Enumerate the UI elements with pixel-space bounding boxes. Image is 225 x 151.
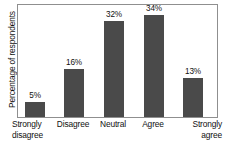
x-tick-strongly-agree: Strongly agree xyxy=(178,119,222,140)
bar-rect[interactable] xyxy=(183,78,203,117)
figure-caption xyxy=(24,147,214,151)
x-tick-line: Strongly xyxy=(178,119,222,130)
bar-value-label: 13% xyxy=(185,67,201,76)
bar-rect[interactable] xyxy=(25,102,45,117)
x-tick-line: Agree xyxy=(131,119,175,130)
x-axis-tick-labels: Strongly disagree Disagree Neutral Agree… xyxy=(17,119,218,149)
x-tick-disagree: Disagree xyxy=(51,119,95,130)
x-tick-strongly-disagree: Strongly disagree xyxy=(12,119,56,140)
x-tick-line: Disagree xyxy=(51,119,95,130)
bar-rect[interactable] xyxy=(64,69,84,117)
bar-chart-figure: Percentage of respondents 5% 16% 32% 34%… xyxy=(0,0,225,151)
y-axis-title: Percentage of respondents xyxy=(8,1,17,119)
plot-area: 5% 16% 32% 34% 13% xyxy=(17,4,218,118)
bar-value-label: 34% xyxy=(146,4,162,13)
bar-rect[interactable] xyxy=(144,15,164,117)
plot-inner: 5% 16% 32% 34% 13% xyxy=(18,5,217,117)
bar-value-label: 16% xyxy=(66,58,82,67)
bar-value-label: 5% xyxy=(29,91,41,100)
x-tick-line: disagree xyxy=(12,130,56,141)
bar-rect[interactable] xyxy=(104,21,124,117)
x-tick-agree: Agree xyxy=(131,119,175,130)
x-tick-neutral: Neutral xyxy=(91,119,135,130)
x-tick-line: Neutral xyxy=(91,119,135,130)
x-tick-line: agree xyxy=(178,130,222,141)
x-tick-line: Strongly xyxy=(12,119,56,130)
bar-value-label: 32% xyxy=(106,10,122,19)
